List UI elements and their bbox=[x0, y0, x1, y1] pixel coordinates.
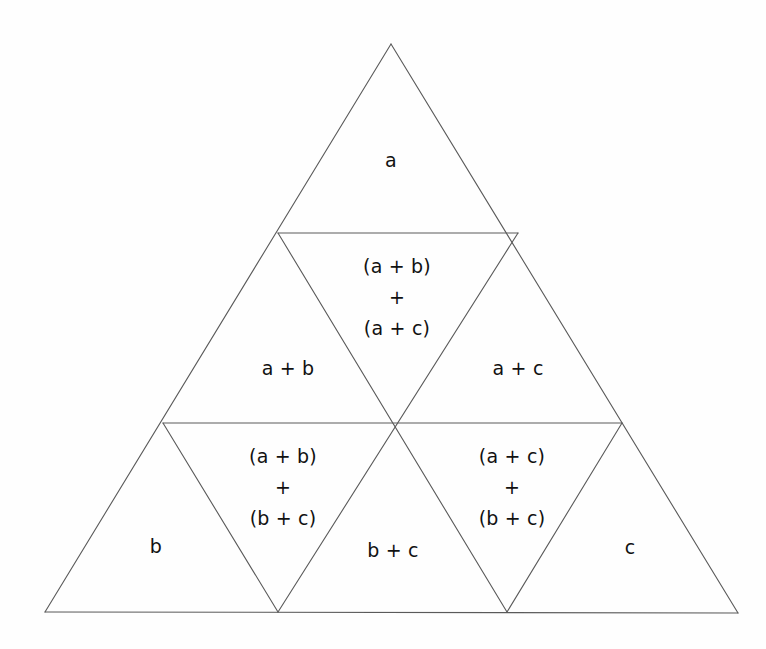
cell-a: a bbox=[385, 145, 397, 176]
cell-ab-plus-ac: (a + b)+(a + c) bbox=[363, 251, 431, 343]
cell-c: c bbox=[625, 532, 636, 563]
cell-a-plus-c-line: a + c bbox=[492, 353, 543, 384]
cell-ac-plus-bc-line: (b + c) bbox=[479, 502, 546, 533]
cell-ac-plus-bc-line: (a + c) bbox=[479, 441, 546, 472]
cell-ac-plus-bc: (a + c)+(b + c) bbox=[479, 441, 546, 533]
cell-a-plus-b: a + b bbox=[262, 353, 315, 384]
cell-b-line: b bbox=[150, 531, 162, 562]
cell-ab-plus-bc-line: (a + b) bbox=[249, 441, 317, 472]
outer-edge-right bbox=[391, 44, 738, 613]
cell-ab-plus-ac-line: + bbox=[363, 282, 431, 313]
cell-b-plus-c-line: b + c bbox=[367, 535, 419, 566]
cell-ab-plus-bc: (a + b)+(b + c) bbox=[249, 441, 317, 533]
diagram-canvas: a(a + b)+(a + c)a + ba + c(a + b)+(b + c… bbox=[0, 0, 766, 649]
cell-ab-plus-bc-line: + bbox=[249, 472, 317, 503]
outer-edge-base bbox=[45, 612, 738, 613]
cell-ab-plus-bc-line: (b + c) bbox=[249, 502, 317, 533]
cell-b: b bbox=[150, 531, 162, 562]
cell-ab-plus-ac-line: (a + c) bbox=[363, 312, 431, 343]
cell-c-line: c bbox=[625, 532, 636, 563]
cell-b-plus-c: b + c bbox=[367, 535, 419, 566]
cell-a-plus-b-line: a + b bbox=[262, 353, 315, 384]
cell-ab-plus-ac-line: (a + b) bbox=[363, 251, 431, 282]
outer-edge-left bbox=[45, 44, 391, 612]
cell-a-plus-c: a + c bbox=[492, 353, 543, 384]
cell-ac-plus-bc-line: + bbox=[479, 472, 546, 503]
cell-a-line: a bbox=[385, 145, 397, 176]
